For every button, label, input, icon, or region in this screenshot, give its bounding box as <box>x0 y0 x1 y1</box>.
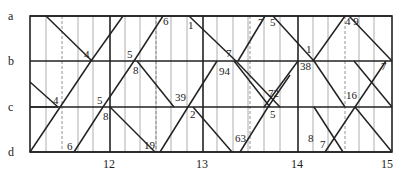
annotation: 39 <box>175 91 187 103</box>
tick-15: 15 <box>381 157 393 171</box>
time-annotations: 4 5 8 6 1 7 7 94 5 1 38 4 9 7 4 5 8 39 2… <box>53 15 387 152</box>
annotation: 63 <box>235 132 247 144</box>
station-label-b: b <box>8 54 14 68</box>
annotation: 6 <box>67 140 73 152</box>
annotation: 19 <box>144 139 156 151</box>
annotation: 7 <box>381 60 387 72</box>
annotation: 5 <box>270 16 276 28</box>
annotation: 38 <box>300 60 312 72</box>
hour-grid <box>110 16 298 152</box>
annotation: 8 <box>308 132 314 144</box>
annotation: 1 <box>188 19 194 31</box>
annotation: 5 <box>97 94 103 106</box>
station-label-a: a <box>8 9 14 23</box>
tick-14: 14 <box>291 157 303 171</box>
annotation: 94 <box>219 65 231 77</box>
annotation: 7 <box>258 16 264 28</box>
annotation: 7 <box>320 138 326 150</box>
time-axis: 12 13 14 15 <box>103 157 393 171</box>
station-label-d: d <box>8 145 14 159</box>
annotation: 4 <box>53 94 59 106</box>
annotation: 4 <box>84 48 90 60</box>
annotation: 8 <box>133 64 139 76</box>
train-paths <box>30 16 392 152</box>
annotation: 1 <box>306 43 312 55</box>
annotation: 16 <box>346 89 358 101</box>
annotation: 5 <box>270 108 276 120</box>
timetable-diagram: a b c d 12 13 14 15 4 5 8 6 1 7 7 94 5 1… <box>0 0 404 179</box>
annotation: 72 <box>268 87 279 99</box>
annotation: 5 <box>127 48 133 60</box>
annotation: 6 <box>163 15 169 27</box>
annotation: 8 <box>103 110 109 122</box>
tick-12: 12 <box>103 157 115 171</box>
annotation: 4 9 <box>345 15 359 27</box>
annotation: 7 <box>226 47 232 59</box>
annotation: 2 <box>190 108 196 120</box>
station-labels: a b c d <box>8 9 14 159</box>
tick-13: 13 <box>196 157 208 171</box>
station-label-c: c <box>8 100 13 114</box>
